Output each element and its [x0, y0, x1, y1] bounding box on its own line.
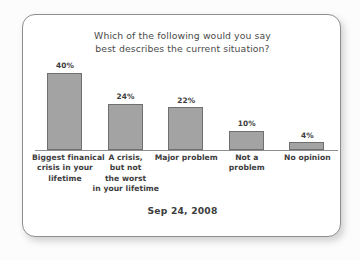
x-axis-label-0-line-0: Biggest finanical [32, 153, 98, 163]
chart-caption-date: Sep 24, 2008 [23, 205, 342, 216]
bar-0 [47, 73, 82, 150]
x-axis-label-1: A crisis,but notthe worstin your lifetim… [93, 153, 159, 195]
bar-1 [108, 104, 143, 150]
x-axis-label-0-line-1: crisis in your [32, 163, 98, 173]
bar-2 [168, 107, 203, 150]
x-axis-labels: Biggest finanicalcrisis in yourlifetime … [35, 153, 338, 213]
bar-4 [289, 142, 324, 150]
plot-area: 40% 24% 22% 10% 4% [35, 61, 338, 150]
x-axis-line [35, 150, 338, 151]
x-axis-label-1-line-0: A crisis, [93, 153, 159, 163]
x-axis-label-4-line-0: No opinion [271, 153, 343, 163]
x-axis-label-1-line-2: the worst [93, 174, 159, 184]
x-axis-label-4: No opinion [271, 153, 343, 163]
bar-value-label-4: 4% [277, 131, 337, 140]
bar-3 [229, 131, 264, 150]
x-axis-label-1-line-3: in your lifetime [93, 184, 159, 194]
x-axis-label-0-line-2: lifetime [32, 174, 98, 184]
bar-value-label-1: 24% [96, 92, 156, 101]
chart-card: Which of the following would you say bes… [22, 14, 341, 237]
chart-title-line-1: Which of the following would you say [23, 29, 342, 42]
bar-value-label-2: 22% [156, 96, 216, 105]
x-axis-label-3: Not aproblem [214, 153, 280, 174]
page-background: Which of the following would you say bes… [0, 0, 360, 260]
chart-title-line-2: best describes the current situation? [23, 42, 342, 55]
bar-group-0: 40% [35, 61, 95, 150]
x-axis-label-1-line-1: but not [93, 163, 159, 173]
bar-group-4: 4% [277, 61, 337, 150]
chart-title: Which of the following would you say bes… [23, 29, 342, 55]
bar-group-1: 24% [96, 61, 156, 150]
bar-group-3: 10% [217, 61, 277, 150]
x-axis-label-3-line-1: problem [214, 163, 280, 173]
x-axis-label-0: Biggest finanicalcrisis in yourlifetime [32, 153, 98, 184]
x-axis-label-2-line-0: Major problem [150, 153, 222, 163]
x-axis-label-3-line-0: Not a [214, 153, 280, 163]
bar-group-2: 22% [156, 61, 216, 150]
x-axis-label-2: Major problem [150, 153, 222, 163]
bar-value-label-0: 40% [35, 61, 95, 70]
bar-value-label-3: 10% [217, 119, 277, 128]
